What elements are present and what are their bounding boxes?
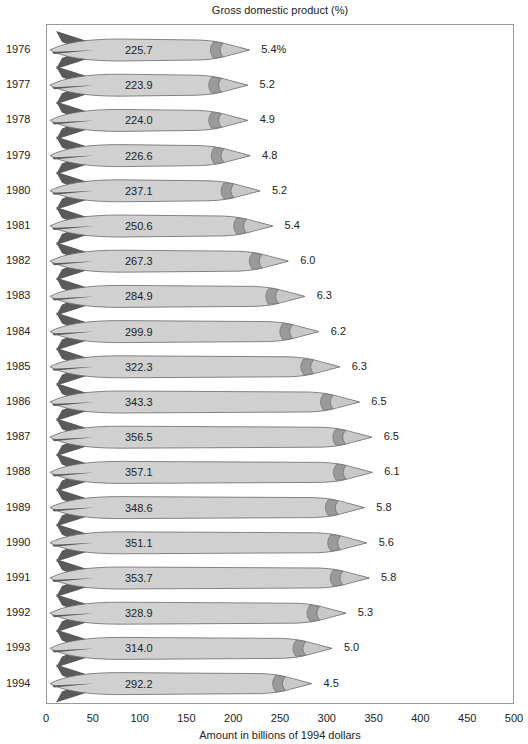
value-label: 284.9 [125, 290, 153, 302]
value-label: 292.2 [125, 678, 153, 690]
percent-label: 5.4% [261, 43, 286, 55]
x-tick: 350 [364, 712, 382, 724]
percent-label: 5.3 [358, 606, 373, 618]
rocket-bar: 237.15.2 [50, 172, 287, 210]
percent-label: 5.2 [260, 78, 275, 90]
y-tick-label: 1994 [0, 677, 46, 689]
rocket-bar: 267.36.0 [50, 242, 315, 280]
percent-label: 5.4 [285, 219, 300, 231]
rocket-bar: 351.15.6 [50, 524, 394, 562]
y-tick-label: 1988 [0, 465, 46, 477]
value-label: 299.9 [125, 326, 153, 338]
y-tick-label: 1983 [0, 289, 46, 301]
x-tick: 450 [458, 712, 476, 724]
percent-label: 4.9 [260, 113, 275, 125]
rocket-bar: 226.64.8 [50, 137, 277, 175]
rocket-bar: 353.75.8 [50, 559, 396, 597]
rocket-bar: 356.56.5 [50, 418, 399, 456]
y-tick-label: 1992 [0, 606, 46, 618]
rocket-bar: 223.95.2 [50, 66, 275, 104]
y-tick-label: 1982 [0, 254, 46, 266]
rocket-bar: 284.96.3 [50, 277, 332, 315]
value-label: 353.7 [125, 572, 153, 584]
percent-label: 6.3 [352, 360, 367, 372]
percent-label: 5.2 [272, 184, 287, 196]
y-tick-label: 1990 [0, 536, 46, 548]
value-label: 226.6 [125, 150, 153, 162]
y-tick-label: 1984 [0, 325, 46, 337]
x-tick: 400 [411, 712, 429, 724]
value-label: 223.9 [125, 79, 153, 91]
rocket-bar: 348.65.8 [50, 489, 392, 527]
value-label: 356.5 [125, 431, 153, 443]
value-label: 224.0 [125, 114, 153, 126]
y-tick-label: 1980 [0, 184, 46, 196]
rocket-bar: 328.95.3 [50, 594, 373, 632]
value-label: 343.3 [125, 396, 153, 408]
rocket-bar: 357.16.1 [50, 453, 400, 491]
y-tick-label: 1981 [0, 219, 46, 231]
percent-label: 5.8 [381, 571, 396, 583]
y-tick-label: 1986 [0, 395, 46, 407]
y-tick-label: 1985 [0, 360, 46, 372]
x-tick: 500 [505, 712, 523, 724]
percent-label: 5.8 [376, 501, 391, 513]
value-label: 267.3 [125, 255, 153, 267]
percent-label: 5.6 [379, 536, 394, 548]
percent-label: 4.8 [262, 149, 277, 161]
value-label: 328.9 [125, 607, 153, 619]
percent-label: 6.5 [384, 430, 399, 442]
rocket-bar: 314.05.0 [50, 629, 359, 667]
x-axis-label: Amount in billions of 1994 dollars [0, 729, 528, 741]
value-label: 322.3 [125, 361, 153, 373]
y-tick-label: 1991 [0, 571, 46, 583]
value-label: 237.1 [125, 185, 153, 197]
x-tick: 100 [130, 712, 148, 724]
rocket-bar: 224.04.9 [50, 101, 275, 139]
rocket-bar: 250.65.4 [50, 207, 300, 245]
x-tick: 300 [318, 712, 336, 724]
percent-label: 4.5 [323, 677, 338, 689]
rocket-bar: 299.96.2 [50, 313, 346, 351]
percent-label: 6.0 [300, 254, 315, 266]
value-label: 250.6 [125, 220, 153, 232]
percent-label: 6.1 [384, 465, 399, 477]
value-label: 351.1 [125, 537, 153, 549]
x-tick: 0 [43, 712, 49, 724]
x-tick: 250 [271, 712, 289, 724]
rocket-bar: 225.75.4% [50, 31, 287, 69]
x-tick: 200 [224, 712, 242, 724]
y-tick-label: 1993 [0, 641, 46, 653]
rocket-bar: 343.36.5 [50, 383, 387, 421]
y-tick-label: 1977 [0, 78, 46, 90]
y-tick-label: 1979 [0, 149, 46, 161]
value-label: 225.7 [125, 44, 153, 56]
value-label: 348.6 [125, 502, 153, 514]
y-tick-label: 1976 [0, 43, 46, 55]
x-tick: 150 [177, 712, 195, 724]
rocket-bar: 292.24.5 [50, 665, 339, 703]
value-label: 314.0 [125, 642, 153, 654]
y-tick-label: 1987 [0, 430, 46, 442]
percent-label: 6.2 [331, 325, 346, 337]
y-tick-label: 1978 [0, 113, 46, 125]
y-tick-label: 1989 [0, 501, 46, 513]
percent-label: 6.5 [371, 395, 386, 407]
x-tick: 50 [87, 712, 99, 724]
value-label: 357.1 [125, 466, 153, 478]
rocket-bar: 322.36.3 [50, 348, 367, 386]
percent-label: 5.0 [344, 641, 359, 653]
percent-label: 6.3 [317, 289, 332, 301]
